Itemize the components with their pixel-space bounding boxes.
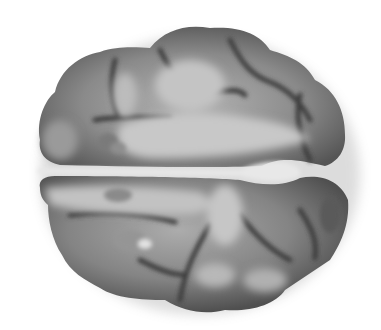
brain-illustration [0, 0, 381, 330]
top-hemisphere [39, 27, 345, 167]
bottom-hemisphere [40, 176, 349, 312]
brain-render-image: Grayscale surface rendering of a brain v… [0, 0, 381, 330]
